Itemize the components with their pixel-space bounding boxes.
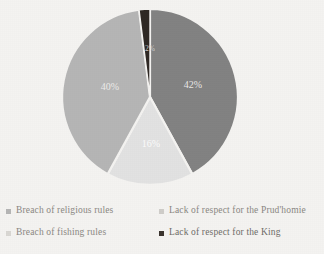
pie-label-religious-rules: 40%	[101, 81, 119, 92]
pie-svg: 42% 16% 40% 2%	[0, 0, 324, 194]
legend-label: Breach of religious rules	[16, 206, 113, 216]
legend-item-fishing-rules[interactable]: Breach of fishing rules	[0, 222, 155, 244]
pie-label-fishing-rules: 16%	[142, 138, 160, 149]
legend-swatch-icon	[6, 231, 11, 236]
legend-label: Lack of respect for the King	[169, 228, 281, 238]
legend-item-king[interactable]: Lack of respect for the King	[155, 222, 324, 244]
pie-plot-area: 42% 16% 40% 2%	[0, 0, 324, 194]
legend-label: Lack of respect for the Prud'homie	[169, 206, 306, 216]
pie-label-king: 2%	[145, 44, 155, 53]
legend-label: Breach of fishing rules	[16, 228, 106, 238]
legend-item-religious-rules[interactable]: Breach of religious rules	[0, 200, 155, 222]
legend-row: Breach of religious rules Lack of respec…	[0, 200, 324, 222]
pie-label-prudhomie: 42%	[184, 79, 202, 90]
legend-swatch-icon	[159, 231, 164, 236]
pie-chart-figure: 42% 16% 40% 2% Breach of religious rules…	[0, 0, 324, 254]
legend-swatch-icon	[159, 209, 164, 214]
legend-swatch-icon	[6, 209, 11, 214]
chart-legend: Breach of religious rules Lack of respec…	[0, 196, 324, 254]
legend-row: Breach of fishing rules Lack of respect …	[0, 222, 324, 244]
legend-item-prudhomie[interactable]: Lack of respect for the Prud'homie	[155, 200, 324, 222]
